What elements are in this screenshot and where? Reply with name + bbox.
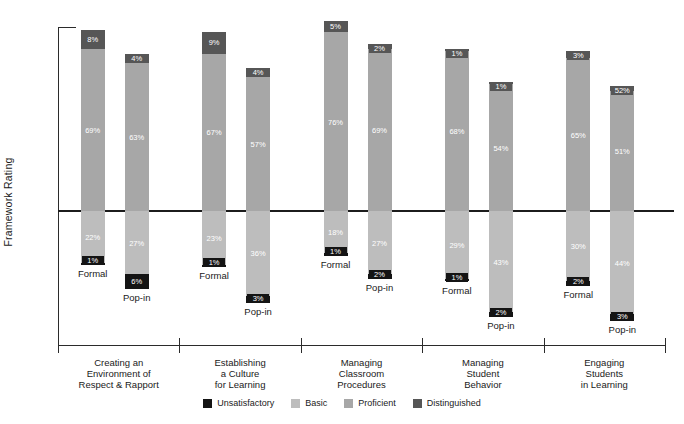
segment-label-proficient: 69% (81, 126, 105, 135)
legend-item: Distinguished (413, 398, 481, 408)
segment-label-distinguished: 52% (611, 86, 633, 95)
category-label: Creating anEnvironment ofRespect & Rappo… (57, 357, 181, 390)
segment-label-unsatisfactory: 1% (203, 258, 225, 267)
segment-label-basic: 23% (202, 234, 226, 243)
segment-label-unsatisfactory: 3% (611, 312, 633, 321)
segment-label-distinguished: 4% (126, 54, 148, 63)
bar-type-label: Pop-in (236, 306, 280, 317)
legend-item: Unsatisfactory (203, 398, 274, 408)
segment-label-unsatisfactory: 1% (82, 256, 104, 265)
segment-label-basic: 22% (81, 233, 105, 242)
category-label-line: for Learning (178, 379, 302, 390)
bar-type-label: Formal (435, 285, 479, 296)
diverging-stacked-bar-chart: Framework Rating UnsatisfactoryBasicProf… (0, 0, 684, 424)
legend-swatch-basic (291, 399, 300, 408)
category-label-line: Behavior (421, 379, 545, 390)
category-label-line: Managing (421, 357, 545, 368)
legend-item: Basic (291, 398, 327, 408)
category-label-line: Student (421, 368, 545, 379)
y-axis-label: Framework Rating (2, 132, 14, 272)
segment-label-proficient: 67% (202, 128, 226, 137)
segment-label-basic: 43% (489, 258, 513, 267)
legend-label: Proficient (358, 398, 396, 408)
segment-label-unsatisfactory: 2% (567, 277, 589, 286)
bar-type-label: Formal (314, 259, 358, 270)
segment-label-basic: 29% (445, 241, 469, 250)
category-label-line: Respect & Rapport (57, 379, 181, 390)
legend-item: Proficient (344, 398, 396, 408)
category-label-line: in Learning (542, 379, 666, 390)
category-label-line: Managing (300, 357, 424, 368)
stacked-bar-formal (202, 32, 226, 267)
segment-label-distinguished: 4% (247, 68, 269, 77)
legend-label: Unsatisfactory (217, 398, 274, 408)
legend: UnsatisfactoryBasicProficientDistinguish… (0, 398, 684, 408)
segment-label-distinguished: 2% (369, 44, 391, 53)
category-label-line: Procedures (300, 379, 424, 390)
category-label: ManagingClassroomProcedures (300, 357, 424, 390)
segment-label-proficient: 68% (445, 127, 469, 136)
stacked-bar-formal (81, 30, 105, 265)
stacked-bar-pop-in (489, 82, 513, 317)
category-label: Establishinga Culturefor Learning (178, 357, 302, 390)
x-axis-line (58, 345, 665, 346)
segment-label-proficient: 65% (566, 131, 590, 140)
category-label-line: Creating an (57, 357, 181, 368)
legend-swatch-unsatisfactory (203, 399, 212, 408)
category-label-line: Classroom (300, 368, 424, 379)
category-boundary-tick (665, 338, 666, 353)
segment-label-proficient: 63% (125, 133, 149, 142)
segment-label-proficient: 76% (324, 118, 348, 127)
segment-label-distinguished: 8% (82, 30, 104, 49)
category-boundary-tick (179, 338, 180, 353)
legend-label: Distinguished (427, 398, 481, 408)
bar-type-label: Pop-in (358, 282, 402, 293)
segment-label-basic: 44% (610, 259, 634, 268)
segment-label-unsatisfactory: 2% (490, 308, 512, 317)
bar-type-label: Formal (71, 268, 115, 279)
segment-label-unsatisfactory: 2% (369, 270, 391, 279)
category-label-line: Establishing (178, 357, 302, 368)
legend-swatch-distinguished (413, 399, 422, 408)
segment-label-unsatisfactory: 3% (247, 294, 269, 303)
category-boundary-tick (422, 338, 423, 353)
stacked-bar-formal (324, 21, 348, 256)
category-label: ManagingStudentBehavior (421, 357, 545, 390)
category-boundary-tick (544, 338, 545, 353)
segment-label-basic: 27% (125, 239, 149, 248)
y-axis-line (58, 27, 59, 353)
category-label-line: a Culture (178, 368, 302, 379)
segment-label-proficient: 54% (489, 144, 513, 153)
segment-label-proficient: 69% (368, 126, 392, 135)
segment-label-distinguished: 9% (203, 32, 225, 53)
segment-label-distinguished: 1% (490, 82, 512, 91)
category-boundary-tick (301, 338, 302, 353)
category-label-line: Environment of (57, 368, 181, 379)
legend-label: Basic (305, 398, 327, 408)
bar-type-label: Pop-in (115, 292, 159, 303)
segment-label-unsatisfactory: 1% (446, 273, 468, 282)
category-label: EngagingStudentsin Learning (542, 357, 666, 390)
segment-label-distinguished: 5% (325, 21, 347, 33)
category-boundary-tick (58, 338, 59, 353)
segment-label-basic: 27% (368, 239, 392, 248)
segment-label-proficient: 51% (610, 147, 634, 156)
stacked-bar-pop-in (246, 68, 270, 303)
stacked-bar-pop-in (610, 86, 634, 321)
segment-label-proficient: 57% (246, 140, 270, 149)
category-label-line: Engaging (542, 357, 666, 368)
segment-label-unsatisfactory: 6% (126, 274, 148, 288)
segment-label-basic: 36% (246, 249, 270, 258)
bar-type-label: Formal (192, 270, 236, 281)
segment-label-distinguished: 3% (567, 51, 589, 60)
y-axis-top-tick (58, 27, 76, 28)
category-label-line: Students (542, 368, 666, 379)
segment-label-basic: 30% (566, 242, 590, 251)
bar-type-label: Pop-in (600, 324, 644, 335)
segment-label-distinguished: 1% (446, 49, 468, 58)
bar-type-label: Pop-in (479, 320, 523, 331)
legend-swatch-proficient (344, 399, 353, 408)
bar-type-label: Formal (556, 289, 600, 300)
segment-label-basic: 18% (324, 228, 348, 237)
segment-label-unsatisfactory: 1% (325, 247, 347, 256)
